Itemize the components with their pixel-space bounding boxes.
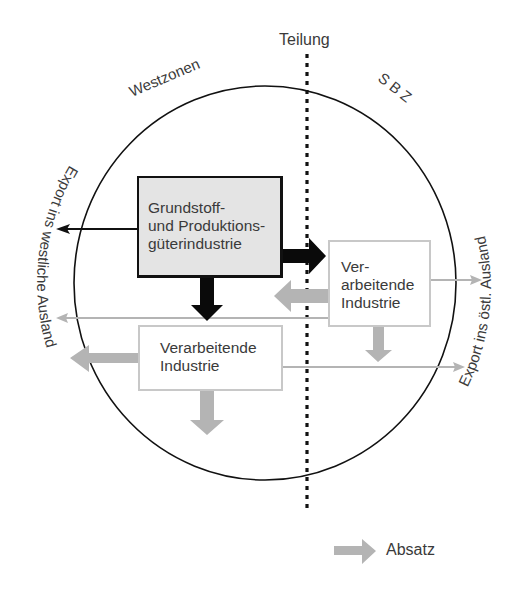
bold-gray-arrow-left: [274, 280, 328, 312]
processing-east-line-3: Industrie: [341, 294, 429, 312]
division-label: Teilung: [279, 31, 330, 49]
processing-industry-east-box: Ver- arbeitende Industrie: [328, 240, 431, 327]
bold-gray-arrow-left-west: [70, 345, 138, 372]
processing-east-line-2: arbeitende: [341, 276, 429, 294]
economic-flow-diagram: Export ins westliche Ausland Export ins …: [0, 0, 521, 596]
thin-black-arrow-west-export: [56, 224, 137, 234]
primary-industry-box: Grundstoff- und Produktions- güterindust…: [137, 176, 283, 278]
primary-industry-line-2: und Produktions-: [148, 217, 280, 235]
processing-west-line-2: Industrie: [160, 357, 281, 375]
left-export-label: Export ins westliche Ausland: [34, 164, 82, 350]
processing-industry-west-box: Verarbeitende Industrie: [138, 325, 283, 391]
west-zone-label: Westzonen: [127, 55, 202, 100]
east-zone-label: S B Z: [375, 69, 415, 105]
bold-black-arrow-down: [191, 278, 223, 321]
diagram-canvas: Export ins westliche Ausland Export ins …: [0, 0, 521, 596]
bold-gray-arrow-down-west: [190, 391, 224, 435]
thin-gray-arrow-west-to-east-export: [283, 362, 465, 372]
primary-industry-line-1: Grundstoff-: [148, 199, 280, 217]
processing-east-line-1: Ver-: [341, 258, 429, 276]
processing-west-line-1: Verarbeitende: [160, 339, 281, 357]
bold-gray-arrow-down-east: [365, 327, 392, 362]
legend-arrow-icon: [334, 539, 376, 564]
thin-gray-arrow-east-to-west-export: [56, 313, 328, 323]
legend-label: Absatz: [386, 541, 435, 559]
primary-industry-line-3: güterindustrie: [148, 235, 280, 253]
bold-black-arrow-right: [283, 238, 326, 274]
